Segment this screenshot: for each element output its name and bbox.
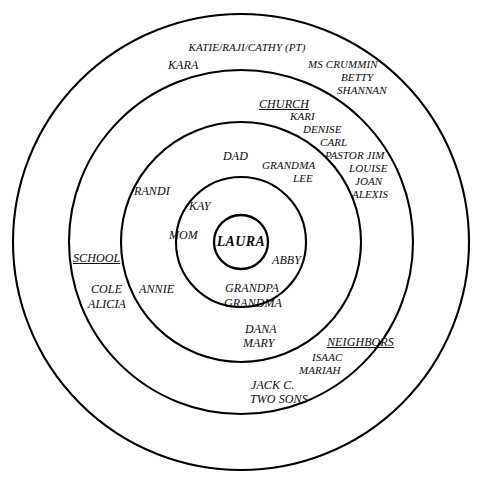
label-annie: ANNIE	[139, 283, 174, 295]
center-label-laura: LAURA	[217, 235, 266, 249]
label-grandpa: GRANDPA	[225, 282, 279, 294]
label-katie-raji-cathy: KATIE/RAJI/CATHY (PT)	[188, 42, 305, 53]
label-lee: LEE	[293, 173, 313, 184]
label-dana: DANA	[245, 323, 277, 335]
label-jack-c: JACK C.	[251, 379, 294, 391]
label-abby: ABBY	[272, 254, 301, 266]
label-neighbors: NEIGHBORS	[327, 336, 394, 348]
label-cole: COLE	[91, 283, 122, 295]
label-kara: KARA	[168, 59, 198, 71]
label-randi: RANDI	[134, 185, 170, 197]
label-alicia: ALICIA	[88, 298, 126, 310]
label-alexis: ALEXIS	[352, 189, 388, 200]
label-joan: JOAN	[355, 176, 382, 187]
label-school: SCHOOL	[73, 252, 120, 264]
label-church: CHURCH	[259, 98, 309, 110]
label-denise: DENISE	[303, 124, 341, 135]
label-kay: KAY	[189, 200, 211, 212]
label-isaac: ISAAC	[312, 352, 342, 363]
label-grandma: GRANDMA	[262, 160, 315, 171]
label-dad: DAD	[223, 150, 248, 162]
label-mariah: MARIAH	[299, 365, 341, 376]
label-kari: KARI	[290, 111, 315, 122]
label-shannan: SHANNAN	[337, 85, 387, 96]
label-grandma-2: GRANDMA	[224, 297, 282, 309]
label-mary: MARY	[243, 337, 275, 349]
label-mom: MOM	[169, 229, 198, 241]
label-carl: CARL	[320, 137, 347, 148]
label-betty: BETTY	[341, 72, 373, 83]
label-pastor-jim: PASTOR JIM	[325, 150, 385, 161]
label-two-sons: TWO SONS	[250, 393, 308, 405]
label-ms-crummin: MS CRUMMIN	[308, 59, 378, 70]
label-louise: LOUISE	[349, 163, 388, 174]
diagram-canvas: LAURA KATIE/RAJI/CATHY (PT)KARAMS CRUMMI…	[0, 0, 478, 494]
